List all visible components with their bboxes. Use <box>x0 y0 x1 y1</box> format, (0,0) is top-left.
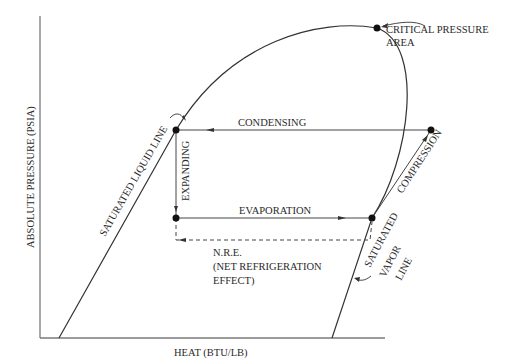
critical-label-1: CRITICAL PRESSURE <box>386 24 489 35</box>
state-point-evaporator-inlet <box>173 215 180 222</box>
saturated-liquid-label: SATURATED LIQUID LINE <box>97 124 169 238</box>
expanding-arrow-icon <box>174 206 178 212</box>
nre-label-3: EFFECT) <box>213 275 255 287</box>
nre-label-1: N.R.E. <box>213 247 242 258</box>
y-axis-label: ABSOLUTE PRESSURE (PSIA) <box>25 106 37 248</box>
nre-label-2: (NET REFRIGERATION <box>213 261 322 273</box>
critical-label-2: AREA <box>386 37 415 48</box>
liquid-leader <box>170 114 184 119</box>
vapor-arrow-icon <box>354 277 360 282</box>
nre-arrow-icon <box>178 238 186 242</box>
saturated-liquid-line <box>59 26 377 338</box>
condensing-label: CONDENSING <box>238 117 307 128</box>
expanding-label: EXPANDING <box>180 140 191 201</box>
x-axis-label: HEAT (BTU/LB) <box>174 347 248 359</box>
state-point-condenser-outlet <box>173 127 180 134</box>
critical-point <box>374 25 381 32</box>
evaporation-label: EVAPORATION <box>239 205 312 216</box>
evaporation-arrow-icon <box>338 216 346 220</box>
state-point-compressor-outlet <box>428 127 435 134</box>
nre-dashed-line <box>176 218 372 240</box>
compression-label: COMPRESSION <box>394 127 443 195</box>
ph-diagram: ABSOLUTE PRESSURE (PSIA) HEAT (BTU/LB) C… <box>0 0 518 364</box>
state-point-evaporator-outlet <box>369 215 376 222</box>
condensing-arrow-icon <box>206 128 214 132</box>
